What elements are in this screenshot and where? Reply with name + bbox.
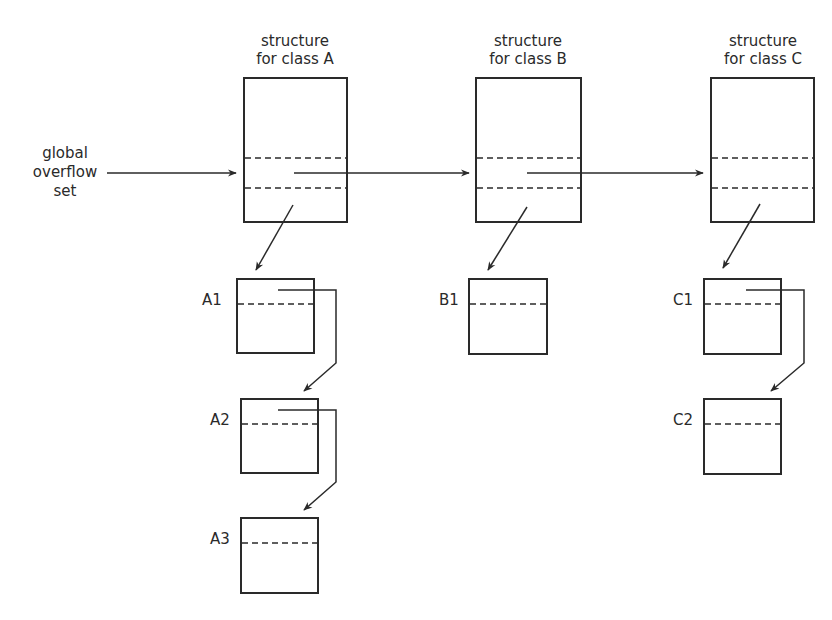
class-a-title-line-2: for class A (256, 50, 334, 68)
input-label-line-3: set (54, 182, 77, 200)
class-b-box (476, 78, 581, 222)
node-a3-label: A3 (210, 530, 230, 548)
class-c-title-line-2: for class C (724, 50, 802, 68)
class-a-title-line-1: structure (261, 32, 329, 50)
node-c1-label: C1 (673, 291, 693, 309)
node-b1-label: B1 (439, 291, 459, 309)
node-c2-label: C2 (673, 411, 693, 429)
class-c-box (711, 78, 814, 222)
node-b1: B1 (439, 279, 547, 354)
class-b-structure: structure for class B (476, 32, 581, 222)
overflow-structure-diagram: global overflow set structure for class … (0, 0, 832, 620)
node-a3: A3 (210, 518, 318, 593)
node-b1-box (469, 279, 547, 354)
class-c-structure: structure for class C (711, 32, 814, 222)
node-c2: C2 (673, 399, 781, 474)
global-overflow-set-label: global overflow set (33, 144, 97, 200)
node-c2-box (704, 399, 781, 474)
input-label-line-2: overflow (33, 163, 97, 181)
class-b-title-line-1: structure (494, 32, 562, 50)
input-label-line-1: global (42, 144, 88, 162)
class-a-box (244, 78, 347, 222)
class-a-structure: structure for class A (244, 32, 347, 222)
node-a2-label: A2 (210, 411, 230, 429)
node-a3-box (241, 518, 318, 593)
node-a1-label: A1 (202, 291, 222, 309)
class-c-title-line-1: structure (729, 32, 797, 50)
class-b-title-line-2: for class B (489, 50, 567, 68)
